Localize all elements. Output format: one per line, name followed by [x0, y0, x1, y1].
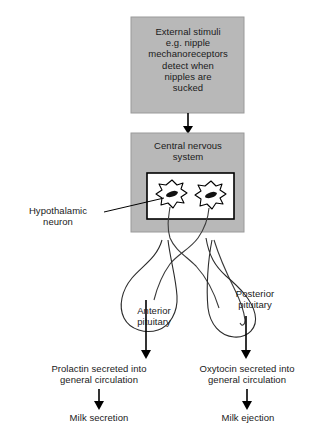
axon-branch-posterior — [214, 240, 245, 325]
prolactin-secretion-label: Prolactin secreted into general circulat… — [34, 363, 164, 385]
posterior-pituitary-label: Posterior pituitary — [221, 288, 289, 310]
milk-ejection-label: Milk ejection — [196, 412, 300, 423]
external-stimuli-label: External stimuli e.g. nipple mechanorece… — [133, 26, 243, 93]
lactation-reflex-diagram: External stimuli e.g. nipple mechanorece… — [0, 0, 326, 444]
arrow-oxytocin-to-milk-ejection — [242, 389, 252, 410]
anterior-pituitary-label: Anterior pituitary — [122, 305, 186, 327]
oxytocin-secretion-label: Oxytocin secreted into general circulati… — [181, 363, 313, 385]
arrow-prolactin-to-milk-secretion — [94, 389, 104, 410]
hypothalamic-neuron-label: Hypothalamic neuron — [10, 205, 106, 227]
arrow-stimuli-to-cns — [183, 113, 193, 134]
milk-secretion-label: Milk secretion — [44, 412, 154, 423]
arrow-posterior-to-oxytocin — [241, 316, 251, 359]
central-nervous-system-label: Central nervous system — [133, 140, 243, 162]
